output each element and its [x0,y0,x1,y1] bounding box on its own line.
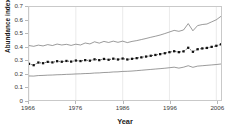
x-tick-mark [28,101,29,104]
y-tick-mark [25,47,28,48]
y-tick-label-0.4: 0.4 [1,44,23,50]
x-tick-label-1966: 1966 [13,104,43,111]
data-marker [187,47,189,49]
y-tick-mark [25,60,28,61]
y-tick-mark [25,33,28,34]
data-marker [70,60,72,62]
data-marker [126,58,128,60]
x-tick-mark [170,101,171,104]
y-tick-label-0.5: 0.5 [1,30,23,36]
y-tick-label-0.1: 0.1 [1,84,23,90]
data-marker [201,47,203,49]
data-marker [154,54,156,56]
x-axis-title: Year [28,117,222,126]
data-marker [192,51,194,53]
data-marker [220,43,221,45]
x-tick-label-1996: 1996 [155,104,185,111]
x-tick-mark [217,101,218,104]
data-marker [164,52,166,54]
data-marker [159,53,161,55]
data-marker [215,45,217,47]
y-tick-label-0.7: 0.7 [1,3,23,9]
data-marker [168,51,170,53]
data-marker [33,64,35,66]
data-marker [136,57,138,59]
y-tick-label-0.6: 0.6 [1,17,23,23]
data-marker [122,57,124,59]
y-tick-label-0.2: 0.2 [1,71,23,77]
data-marker [98,59,100,61]
data-marker [173,50,175,52]
y-tick-mark [25,6,28,7]
y-tick-mark [25,74,28,75]
data-marker [182,50,184,52]
data-marker [196,48,198,50]
data-marker [145,55,147,57]
data-marker [47,61,49,63]
series-line-2 [29,64,221,76]
x-tick-label-1986: 1986 [108,104,138,111]
data-marker [178,51,180,53]
data-marker [42,62,44,64]
data-marker [206,47,208,49]
data-marker [65,60,67,62]
data-marker [56,60,58,62]
plot-area [28,6,222,101]
data-marker [84,59,86,61]
data-marker [150,55,152,57]
data-marker [210,46,212,48]
series-line-0 [29,16,221,46]
data-marker [37,61,39,63]
plot-canvas [29,7,221,100]
y-tick-mark [25,87,28,88]
abundance-index-chart: Abundance index 00.10.20.30.40.50.60.7 1… [0,0,235,131]
data-marker [93,58,95,60]
x-tick-mark [75,101,76,104]
data-marker [75,59,77,61]
data-marker [103,58,105,60]
data-marker [89,60,91,62]
x-tick-label-2006: 2006 [202,104,232,111]
data-marker [61,61,63,63]
x-tick-mark [123,101,124,104]
data-marker [29,63,30,65]
x-tick-label-1976: 1976 [60,104,90,111]
y-tick-mark [25,20,28,21]
data-marker [117,58,119,60]
y-tick-label-0.3: 0.3 [1,57,23,63]
data-marker [51,61,53,63]
data-marker [79,60,81,62]
data-marker [107,59,109,61]
data-marker [131,58,133,60]
data-marker [140,56,142,58]
data-marker [112,58,114,60]
